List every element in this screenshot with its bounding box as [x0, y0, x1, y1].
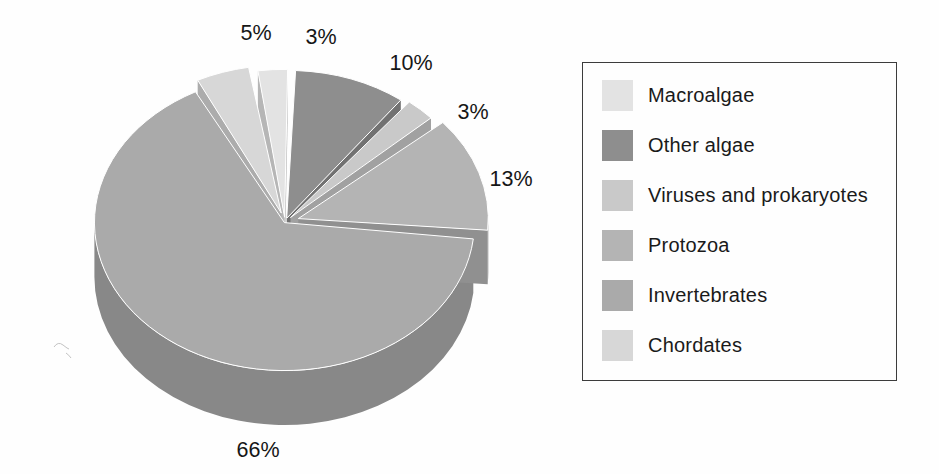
legend-swatch: [602, 230, 633, 261]
legend-box: MacroalgaeOther algaeViruses and prokary…: [582, 62, 897, 381]
legend-label: Invertebrates: [648, 284, 767, 307]
pie-chart-figure: 3%10%3%13%66%5% MacroalgaeOther algaeVir…: [0, 0, 939, 474]
percent-label-viruses-and-prokaryotes: 3%: [457, 100, 488, 124]
legend-label: Viruses and prokaryotes: [648, 184, 868, 207]
legend-swatch: [602, 280, 633, 311]
percent-label-macroalgae: 3%: [305, 25, 336, 49]
legend-label: Other algae: [648, 134, 755, 157]
legend-item: Other algae: [583, 120, 896, 170]
legend-item: Chordates: [583, 320, 896, 370]
percent-label-other-algae: 10%: [389, 51, 432, 75]
legend-label: Macroalgae: [648, 84, 755, 107]
print-smudge-mark: [54, 343, 71, 358]
legend-item: Macroalgae: [583, 70, 896, 120]
legend-label: Protozoa: [648, 234, 730, 257]
legend-item: Protozoa: [583, 220, 896, 270]
percent-label-invertebrates: 66%: [236, 438, 279, 462]
percent-label-protozoa: 13%: [489, 167, 532, 191]
legend-swatch: [602, 130, 633, 161]
legend-item: Invertebrates: [583, 270, 896, 320]
percent-label-chordates: 5%: [240, 21, 271, 45]
legend-swatch: [602, 80, 633, 111]
legend-swatch: [602, 180, 633, 211]
legend-swatch: [602, 330, 633, 361]
legend-item: Viruses and prokaryotes: [583, 170, 896, 220]
legend-label: Chordates: [648, 334, 742, 357]
